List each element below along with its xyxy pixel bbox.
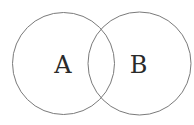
set-a-label: A xyxy=(53,51,72,79)
set-b-label: B xyxy=(130,51,148,79)
venn-diagram: A B xyxy=(0,0,194,125)
